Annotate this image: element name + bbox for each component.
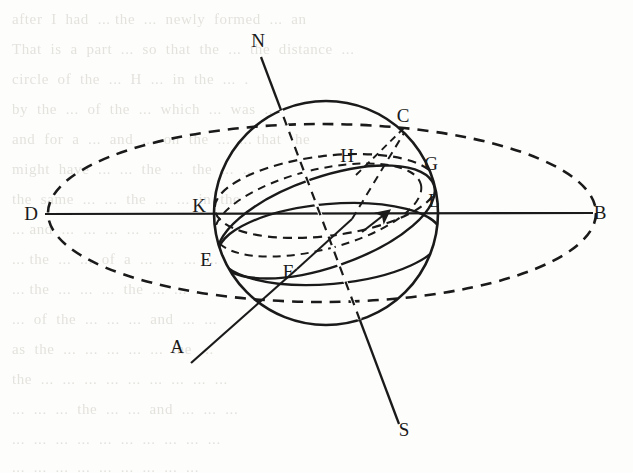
label-H: H (340, 145, 354, 166)
ecliptic-ellipse (204, 142, 449, 301)
label-D: D (24, 203, 38, 224)
label-F: F (283, 261, 294, 282)
label-B: B (594, 202, 607, 223)
label-K: K (192, 195, 206, 216)
celestial-sphere-figure: after I had ... the ... newly formed ...… (0, 0, 633, 473)
label-A: A (170, 336, 184, 357)
label-N: N (251, 30, 265, 51)
celestial-sphere-svg: N C H G D K L B E F A S (0, 0, 633, 473)
label-S: S (399, 419, 410, 440)
label-L: L (428, 190, 440, 211)
label-G: G (424, 153, 438, 174)
label-E: E (200, 249, 212, 270)
label-C: C (397, 105, 410, 126)
